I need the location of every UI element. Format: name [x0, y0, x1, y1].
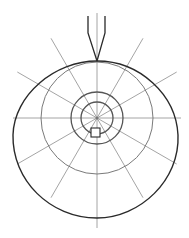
center-point [96, 117, 99, 120]
radial-grid-lines [13, 13, 181, 228]
center-square-marker [91, 128, 100, 137]
outer-boundary [13, 61, 178, 218]
stem-right-line [97, 16, 105, 61]
stem-left-line [88, 16, 97, 61]
diagram-canvas [0, 0, 189, 238]
polar-diagram [0, 0, 189, 238]
